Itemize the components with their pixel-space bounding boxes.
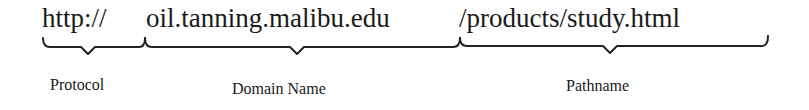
domain-brace-icon [145, 38, 460, 54]
protocol-brace-icon [43, 38, 145, 54]
underbrace-group [0, 0, 809, 110]
pathname-brace-icon [460, 36, 768, 53]
protocol-label: Protocol [50, 76, 104, 94]
pathname-label: Pathname [566, 77, 629, 95]
domain-name-label: Domain Name [232, 80, 326, 98]
